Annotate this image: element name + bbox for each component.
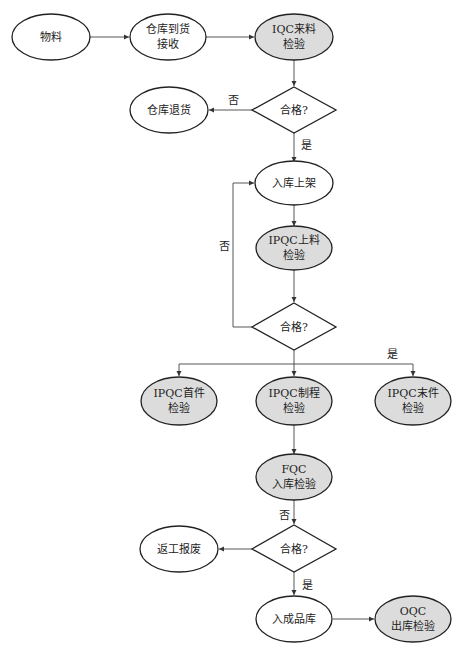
- label-d1-no: 否: [228, 94, 239, 107]
- node-iqc-line2: 检验: [283, 37, 305, 51]
- node-ipqc-first: IPQC首件 检验: [141, 377, 217, 425]
- node-fqc: FQC 入库检验: [256, 454, 332, 500]
- label-d3-yes: 是: [302, 579, 313, 592]
- node-finished-store: 入成品库: [256, 596, 332, 642]
- node-decision1-line1: 合格?: [280, 103, 308, 117]
- node-decision3-line1: 合格?: [280, 542, 308, 556]
- node-shelve-line1: 入库上架: [272, 177, 316, 190]
- label-d2-yes: 是: [387, 348, 398, 361]
- label-d1-yes: 是: [301, 139, 312, 152]
- node-decision3: 合格?: [252, 525, 336, 572]
- node-shelve: 入库上架: [255, 161, 333, 205]
- label-d3-no: 否: [279, 509, 290, 522]
- node-warehouse-receive-line2: 接收: [157, 37, 179, 51]
- node-ipqc-last-line2: 检验: [402, 401, 424, 415]
- node-ipqc-process-line1: IPQC制程: [268, 387, 319, 400]
- node-rework-scrap-line1: 返工报废: [157, 542, 201, 556]
- node-warehouse-receive: 仓库到货 接收: [130, 14, 206, 60]
- node-ipqc-feed-line1: IPQC上料: [268, 233, 319, 247]
- edge-decision2-no-loop: [233, 183, 254, 327]
- node-oqc-line1: OQC: [400, 605, 426, 618]
- node-rework-scrap: 返工报废: [140, 526, 218, 572]
- node-finished-store-line1: 入成品库: [272, 613, 316, 626]
- node-warehouse-receive-line1: 仓库到货: [146, 22, 190, 36]
- node-ipqc-process-line2: 检验: [283, 401, 305, 415]
- node-fqc-line1: FQC: [281, 463, 306, 476]
- node-warehouse-return: 仓库退货: [130, 87, 208, 133]
- node-iqc: IQC来料 检验: [255, 14, 333, 60]
- node-decision2-line1: 合格?: [280, 320, 308, 334]
- flowchart: 否 是 否 是 否 是 物料 仓库到货 接收 IQC来料 检验 合格? 仓库退货…: [0, 0, 465, 649]
- node-decision2: 合格?: [252, 303, 336, 350]
- node-oqc: OQC 出库检验: [375, 596, 451, 642]
- node-ipqc-feed: IPQC上料 检验: [256, 226, 332, 270]
- node-ipqc-first-line2: 检验: [168, 401, 190, 415]
- node-material: 物料: [12, 14, 90, 60]
- node-ipqc-first-line1: IPQC首件: [153, 386, 204, 400]
- node-material-line1: 物料: [40, 30, 62, 44]
- node-iqc-line1: IQC来料: [272, 22, 316, 36]
- node-ipqc-last-line1: IPQC末件: [387, 386, 438, 400]
- node-warehouse-return-line1: 仓库退货: [147, 103, 191, 117]
- node-fqc-line2: 入库检验: [272, 477, 316, 491]
- label-d2-no: 否: [219, 240, 230, 253]
- node-decision1: 合格?: [252, 87, 336, 133]
- node-oqc-line2: 出库检验: [391, 619, 435, 633]
- node-ipqc-process: IPQC制程 检验: [256, 377, 332, 425]
- node-ipqc-last: IPQC末件 检验: [375, 377, 451, 425]
- node-ipqc-feed-line2: 检验: [283, 248, 305, 262]
